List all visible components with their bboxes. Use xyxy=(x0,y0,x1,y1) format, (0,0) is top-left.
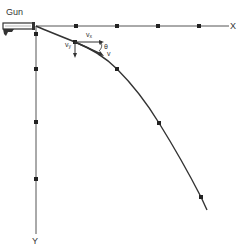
v-arrow xyxy=(75,42,104,56)
trajectory-dots xyxy=(73,40,203,199)
v-label: v xyxy=(107,50,111,57)
y-axis-label: Y xyxy=(32,236,38,246)
trajectory-curve xyxy=(36,26,207,210)
x-axis-label: X xyxy=(230,21,236,31)
theta-label: θ xyxy=(104,43,108,50)
gun-icon xyxy=(3,22,35,36)
gun-label: Gun xyxy=(6,7,23,17)
vy-label: vy xyxy=(65,41,72,49)
vy-arrow xyxy=(73,42,77,58)
trajectory-diagram: Gun X Y vx vy v xyxy=(0,0,246,249)
vx-label: vx xyxy=(86,31,93,39)
